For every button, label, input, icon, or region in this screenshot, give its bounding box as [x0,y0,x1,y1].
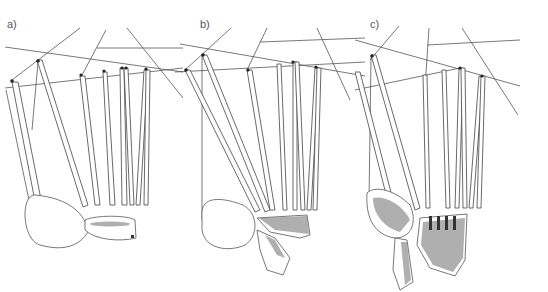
panel-c-drawing [355,0,548,292]
figure: a) [0,0,548,292]
panel-a: a) [0,0,183,292]
panel-b-drawing [175,0,365,292]
panel-a-drawing [0,0,183,292]
panel-b: b) [175,0,365,292]
panel-c: c) [355,0,548,292]
